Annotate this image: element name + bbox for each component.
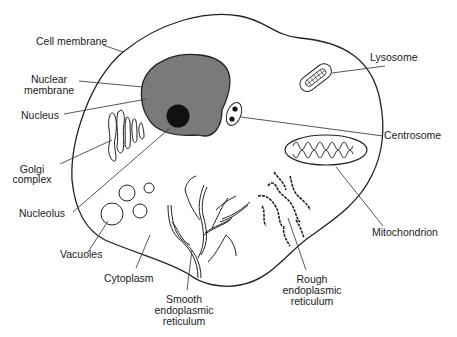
label-centrosome: Centrosome bbox=[384, 130, 441, 141]
golgi-shape bbox=[109, 110, 144, 161]
vacuole bbox=[133, 204, 147, 218]
label-golgi-line2: complex bbox=[12, 174, 52, 185]
label-vacuoles: Vacuoles bbox=[60, 249, 102, 260]
vacuole bbox=[119, 185, 135, 201]
cell-diagram: Cell membrane Nuclear membrane Nucleus G… bbox=[0, 0, 457, 337]
label-nuclear-membrane-line2: membrane bbox=[20, 85, 78, 96]
centriole bbox=[229, 116, 234, 121]
label-nucleolus: Nucleolus bbox=[19, 208, 65, 219]
label-mitochondrion: Mitochondrion bbox=[372, 227, 438, 238]
centriole bbox=[232, 106, 237, 111]
vacuole bbox=[144, 183, 154, 193]
label-cytoplasm: Cytoplasm bbox=[104, 273, 154, 284]
label-smooth-er-line3: reticulum bbox=[150, 316, 218, 327]
label-rough-er-line3: reticulum bbox=[278, 296, 346, 307]
vacuole bbox=[101, 203, 123, 225]
label-lysosome: Lysosome bbox=[370, 52, 417, 63]
nucleolus-shape bbox=[167, 105, 190, 128]
rough-er-shape bbox=[258, 172, 310, 246]
label-cell-membrane: Cell membrane bbox=[36, 36, 107, 47]
smooth-er-shape bbox=[168, 176, 250, 278]
centrosome-shape bbox=[223, 100, 244, 127]
lysosome-shape bbox=[297, 61, 335, 95]
label-nucleus: Nucleus bbox=[21, 110, 59, 121]
